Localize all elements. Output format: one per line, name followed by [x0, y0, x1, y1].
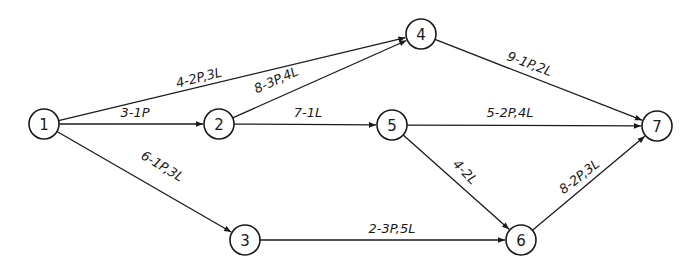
edges-layer [57, 38, 645, 240]
edge-6-7 [532, 136, 644, 230]
edge-label-1-3: 6-1P,3L [138, 148, 186, 185]
node-5: 5 [377, 110, 407, 140]
node-label: 3 [240, 232, 250, 250]
node-label: 6 [516, 232, 526, 250]
node-label: 2 [214, 116, 224, 134]
node-6: 6 [506, 225, 536, 255]
edge-label-2-5: 7-1L [294, 105, 322, 120]
edge-label-4-7: 9-1P,2L [505, 49, 554, 79]
node-7: 7 [642, 111, 672, 141]
edge-label-1-2: 3-1P [120, 105, 149, 120]
node-2: 2 [204, 109, 234, 139]
node-3: 3 [230, 225, 260, 255]
node-label: 1 [39, 116, 49, 134]
node-4: 4 [406, 19, 436, 49]
node-1: 1 [29, 109, 59, 139]
node-label: 7 [652, 118, 662, 136]
edge-4-7 [435, 39, 642, 120]
edge-2-5 [234, 124, 376, 125]
edge-label-3-6: 2-3P,5L [369, 221, 416, 236]
edge-5-7 [407, 125, 641, 126]
node-label: 4 [416, 26, 426, 44]
nodes-layer: 1234567 [29, 19, 672, 255]
edge-1-4 [59, 38, 406, 121]
edge-label-5-7: 5-2P,4L [487, 105, 534, 120]
edge-5-6 [403, 135, 509, 229]
node-label: 5 [387, 117, 397, 135]
edge-1-3 [57, 131, 231, 232]
activity-network-diagram: 4-2P,3L3-1P6-1P,3L8-3P,4L7-1L2-3P,5L9-1P… [0, 0, 694, 269]
edge-label-5-6: 4-2L [450, 156, 481, 187]
